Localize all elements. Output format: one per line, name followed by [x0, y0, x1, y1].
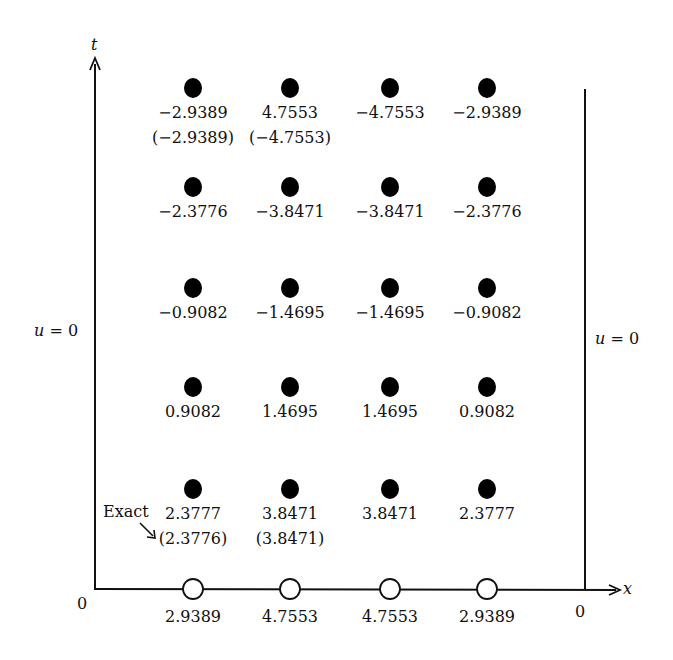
computed-value: −2.9389: [452, 104, 521, 122]
computed-point-icon: [478, 377, 496, 397]
initial-value: 4.7553: [262, 608, 318, 626]
initial-point-icon: [477, 579, 497, 599]
x-axis: [94, 589, 616, 590]
computed-point-icon: [381, 78, 399, 98]
initial-point-icon: [380, 579, 400, 599]
computed-point-icon: [281, 177, 299, 197]
computed-value: −4.7553: [355, 104, 424, 122]
computed-point-icon: [281, 377, 299, 397]
x-axis-label: x: [623, 580, 632, 598]
t-axis-label: t: [91, 36, 97, 54]
computed-point-icon: [281, 278, 299, 298]
exact-value: (3.8471): [256, 530, 324, 548]
computed-value: −1.4695: [255, 304, 324, 322]
computed-value: −2.3776: [158, 203, 227, 221]
exact-arrow-icon: [140, 523, 153, 536]
computed-point-icon: [478, 278, 496, 298]
exact-value: (−4.7553): [249, 129, 331, 147]
computed-point-icon: [281, 78, 299, 98]
computed-point-icon: [184, 177, 202, 197]
initial-point-icon: [183, 579, 203, 599]
computed-value: 3.8471: [262, 505, 318, 523]
computed-point-icon: [381, 177, 399, 197]
computed-point-icon: [381, 377, 399, 397]
exact-value: (−2.9389): [152, 129, 234, 147]
computed-point-icon: [184, 78, 202, 98]
computed-value: −0.9082: [158, 304, 227, 322]
computed-point-icon: [184, 377, 202, 397]
origin-left-label: 0: [77, 595, 87, 613]
computed-point-icon: [381, 278, 399, 298]
computed-value: 0.9082: [459, 403, 515, 421]
computed-point-icon: [478, 78, 496, 98]
initial-value: 2.9389: [459, 608, 515, 626]
computed-value: 2.3777: [165, 505, 221, 523]
computed-point-icon: [478, 479, 496, 499]
origin-right-label: 0: [575, 603, 585, 621]
left-boundary-label: u = 0: [34, 322, 78, 340]
computed-value: −0.9082: [452, 304, 521, 322]
computed-value: 2.3777: [459, 505, 515, 523]
computed-value: −3.8471: [355, 203, 424, 221]
left-boundary-text: = 0: [49, 321, 78, 340]
right-boundary-text: = 0: [610, 329, 639, 348]
right-boundary-label: u = 0: [595, 330, 639, 348]
initial-value: 4.7553: [362, 608, 418, 626]
exact-value: (2.3776): [159, 530, 227, 548]
exact-label: Exact: [103, 503, 149, 521]
computed-value: 1.4695: [262, 403, 318, 421]
initial-value: 2.9389: [165, 608, 221, 626]
diagram-canvas: [0, 0, 673, 660]
computed-point-icon: [478, 177, 496, 197]
computed-point-icon: [281, 479, 299, 499]
computed-point-icon: [381, 479, 399, 499]
computed-value: 1.4695: [362, 403, 418, 421]
initial-point-icon: [280, 579, 300, 599]
computed-value: −2.3776: [452, 203, 521, 221]
computed-point-icon: [184, 479, 202, 499]
computed-value: −2.9389: [158, 104, 227, 122]
grid-points: [183, 78, 497, 599]
computed-value: −1.4695: [355, 304, 424, 322]
computed-value: 4.7553: [262, 104, 318, 122]
computed-value: −3.8471: [255, 203, 324, 221]
computed-value: 3.8471: [362, 505, 418, 523]
computed-point-icon: [184, 278, 202, 298]
computed-value: 0.9082: [165, 403, 221, 421]
